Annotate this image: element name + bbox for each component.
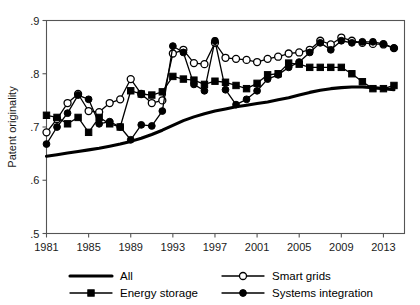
patent-originality-line-chart: .5.6.7.8.9 19811985198919931997200120052… (0, 0, 420, 305)
x-tick-label: 2013 (371, 241, 395, 253)
data-point-marker (54, 124, 61, 131)
data-point-marker (64, 110, 71, 117)
x-axis-ticks: 198119851989199319972001200520092013 (34, 234, 395, 253)
data-point-marker (212, 78, 218, 84)
data-point-marker (222, 54, 229, 61)
chart-figure: .5.6.7.8.9 19811985198919931997200120052… (0, 0, 420, 305)
data-point-marker (264, 55, 271, 62)
series-path (47, 41, 394, 144)
y-tick-label: .7 (30, 121, 39, 133)
data-point-marker (254, 59, 261, 66)
x-tick-label: 1993 (161, 241, 185, 253)
y-tick-label: .5 (30, 228, 39, 240)
data-point-marker (148, 100, 155, 107)
data-point-marker (370, 38, 377, 45)
data-point-marker (54, 114, 60, 120)
legend-entry-smart-grids: Smart grids (222, 270, 331, 282)
data-point-marker (359, 38, 366, 45)
data-point-marker (127, 76, 134, 83)
legend-entry-systems-integration: Systems integration (222, 287, 373, 299)
series-systems-integration (43, 37, 397, 147)
data-point-marker (96, 120, 103, 127)
data-point-marker (328, 64, 334, 70)
legend-label: Smart grids (272, 270, 331, 282)
data-point-marker (233, 82, 239, 88)
data-point-marker (106, 118, 113, 125)
legend-label: Energy storage (120, 287, 198, 299)
x-tick-label: 1981 (34, 241, 58, 253)
data-point-marker (380, 41, 387, 48)
data-point-marker (349, 71, 355, 77)
y-axis-label: Patent originality (6, 86, 18, 168)
data-point-marker (264, 76, 271, 83)
data-point-marker (233, 55, 240, 62)
legend-entry-energy-storage: Energy storage (70, 287, 198, 299)
data-point-marker (180, 49, 187, 56)
data-point-marker (75, 92, 82, 99)
x-tick-label: 1989 (118, 241, 142, 253)
data-point-marker (222, 86, 229, 93)
data-point-marker (359, 79, 365, 85)
data-point-marker (85, 108, 92, 115)
data-point-marker (159, 108, 166, 115)
data-point-marker (191, 81, 198, 88)
data-point-marker (370, 85, 376, 91)
data-point-marker (254, 87, 261, 94)
data-point-marker (285, 50, 292, 57)
data-point-marker (317, 39, 324, 46)
x-tick-label: 1985 (76, 241, 100, 253)
data-point-marker (149, 92, 155, 98)
data-point-marker (380, 85, 386, 91)
data-point-marker (170, 73, 176, 79)
data-point-marker (296, 49, 303, 56)
data-point-marker (338, 37, 345, 44)
data-point-marker (169, 50, 176, 57)
data-point-marker (391, 82, 397, 88)
data-point-marker (75, 114, 81, 120)
data-point-marker (348, 39, 355, 46)
data-point-marker (306, 49, 313, 56)
data-point-marker (243, 56, 250, 63)
data-point-marker (106, 100, 113, 107)
legend-label: All (120, 270, 133, 282)
data-point-marker (117, 96, 124, 103)
legend-marker-filled-circle-icon (240, 290, 247, 297)
data-point-marker (85, 96, 92, 103)
y-tick-label: .9 (30, 15, 39, 27)
data-point-marker (275, 71, 282, 78)
data-point-marker (117, 124, 124, 131)
data-point-marker (64, 100, 71, 107)
series-layer (43, 34, 397, 156)
data-point-marker (169, 43, 176, 50)
data-point-marker (391, 45, 398, 52)
data-point-marker (64, 121, 70, 127)
data-point-marker (254, 80, 260, 86)
x-tick-label: 2009 (329, 241, 353, 253)
data-point-marker (243, 96, 250, 103)
legend-entry-all: All (70, 270, 133, 282)
data-point-marker (212, 37, 219, 44)
data-point-marker (85, 129, 91, 135)
data-point-marker (327, 46, 334, 53)
data-point-marker (317, 64, 323, 70)
data-point-marker (128, 88, 134, 94)
data-point-marker (180, 76, 186, 82)
data-point-marker (138, 121, 145, 128)
chart-legend: AllSmart gridsEnergy storageSystems inte… (70, 270, 373, 299)
legend-marker-filled-square-icon (88, 290, 94, 296)
x-tick-label: 1997 (203, 241, 227, 253)
y-tick-label: .6 (30, 174, 39, 186)
x-tick-label: 2005 (287, 241, 311, 253)
data-point-marker (243, 85, 249, 91)
data-point-marker (201, 87, 208, 94)
data-point-marker (275, 53, 282, 60)
data-point-marker (43, 141, 50, 148)
data-point-marker (43, 129, 50, 136)
data-point-marker (43, 112, 49, 118)
data-point-marker (127, 136, 134, 143)
data-point-marker (307, 64, 313, 70)
data-point-marker (233, 101, 240, 108)
data-point-marker (138, 91, 144, 97)
legend-label: Systems integration (272, 287, 373, 299)
data-point-marker (338, 64, 344, 70)
